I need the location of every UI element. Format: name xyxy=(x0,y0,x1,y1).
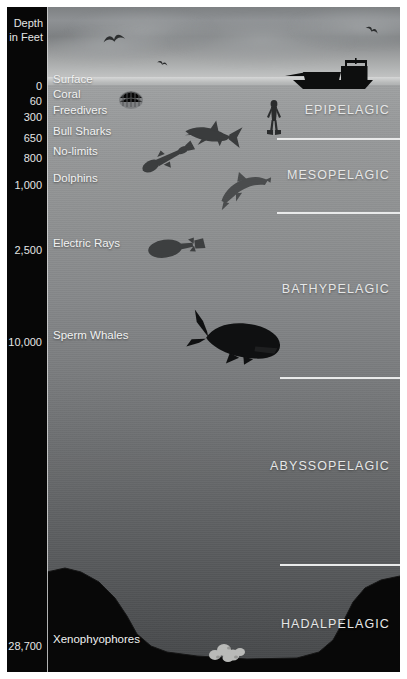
zone-divider-line xyxy=(280,564,400,566)
scale-divider-rule xyxy=(47,7,48,672)
depth-tick-value: 28,700 xyxy=(8,640,42,652)
depth-scale-header: Depth in Feet xyxy=(7,17,43,44)
depth-tick-value: 800 xyxy=(24,152,42,164)
freediver-icon xyxy=(263,99,285,135)
boat-icon xyxy=(285,58,381,92)
depth-scale-panel: Depth in Feet 0603006508001,0002,50010,0… xyxy=(7,7,47,672)
creature-label: Xenophyophores xyxy=(53,633,140,645)
creature-label: Bull Sharks xyxy=(53,125,111,137)
ocean-scene: EPIPELAGICMESOPELAGICBATHYPELAGICABYSSOP… xyxy=(47,7,400,672)
creature-label: Coral xyxy=(53,88,80,100)
depth-tick-value: 300 xyxy=(24,111,42,123)
depth-scale-header-line2: in Feet xyxy=(7,31,43,45)
xenophyophore-icon xyxy=(205,639,251,667)
zone-label: BATHYPELAGIC xyxy=(282,282,390,296)
zone-label: MESOPELAGIC xyxy=(287,168,390,182)
creature-label: Sperm Whales xyxy=(53,329,128,341)
creature-label: No-limits xyxy=(53,145,98,157)
zone-divider-line xyxy=(280,377,400,379)
zone-divider-line xyxy=(277,212,400,214)
zone-divider-line xyxy=(277,138,400,140)
infographic-root: EPIPELAGICMESOPELAGICBATHYPELAGICABYSSOP… xyxy=(0,0,407,679)
depth-tick-value: 0 xyxy=(36,80,42,92)
zone-label: ABYSSOPELAGIC xyxy=(270,459,390,473)
creature-label: Surface xyxy=(53,73,93,85)
depth-scale-header-line1: Depth xyxy=(7,17,43,31)
zone-label: HADALPELAGIC xyxy=(281,617,390,631)
depth-tick-value: 2,500 xyxy=(14,244,42,256)
depth-tick-value: 10,000 xyxy=(8,336,42,348)
bird-icon xyxy=(156,59,168,67)
creature-label: Dolphins xyxy=(53,172,98,184)
creature-label: Freedivers xyxy=(53,104,107,116)
creature-label: Electric Rays xyxy=(53,237,120,249)
depth-tick-value: 60 xyxy=(30,95,42,107)
zone-label: EPIPELAGIC xyxy=(305,103,390,117)
depth-tick-value: 1,000 xyxy=(14,179,42,191)
depth-tick-value: 650 xyxy=(24,132,42,144)
coral-icon xyxy=(117,87,145,111)
